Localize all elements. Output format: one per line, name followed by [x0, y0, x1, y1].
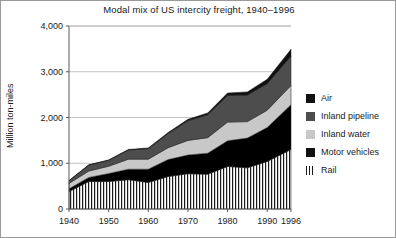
legend-item-label: Rail: [321, 165, 337, 175]
legend-swatch-icon: [306, 166, 315, 175]
x-tick-label: 1990: [257, 216, 277, 226]
legend-item-rail[interactable]: Rail: [306, 161, 394, 179]
x-tick-label: 1960: [138, 216, 158, 226]
legend-swatch-icon: [306, 94, 315, 103]
legend-swatch-icon: [306, 148, 315, 157]
y-tick-label: 4,000: [40, 21, 63, 31]
x-tick-label: 1950: [99, 216, 119, 226]
legend-item-label: Inland pipeline: [321, 111, 379, 121]
y-tick-labels: 01,0002,0003,0004,000: [40, 21, 69, 214]
y-tick-label: 1,000: [40, 158, 63, 168]
legend-item-label: Air: [321, 93, 332, 103]
legend-item-inland-water[interactable]: Inland water: [306, 125, 394, 143]
legend-swatch-icon: [306, 130, 315, 139]
x-tick-label: 1980: [218, 216, 238, 226]
legend-item-inland-pipeline[interactable]: Inland pipeline: [306, 107, 394, 125]
legend-item-label: Motor vehicles: [321, 147, 379, 157]
x-tick-label: 1996: [281, 216, 301, 226]
y-tick-label: 0: [58, 204, 63, 214]
x-tick-label: 1970: [178, 216, 198, 226]
legend-item-label: Inland water: [321, 129, 370, 139]
chart-figure: Modal mix of US intercity freight, 1940–…: [0, 0, 396, 238]
legend-item-air[interactable]: Air: [306, 89, 394, 107]
y-tick-label: 2,000: [40, 113, 63, 123]
y-tick-label: 3,000: [40, 67, 63, 77]
legend-item-motor-vehicles[interactable]: Motor vehicles: [306, 143, 394, 161]
x-tick-labels: 1940195019601970198019901996: [59, 209, 301, 226]
legend-swatch-icon: [306, 112, 315, 121]
x-tick-label: 1940: [59, 216, 79, 226]
chart-legend: AirInland pipelineInland waterMotor vehi…: [306, 89, 394, 179]
area-series-group: [69, 49, 291, 209]
